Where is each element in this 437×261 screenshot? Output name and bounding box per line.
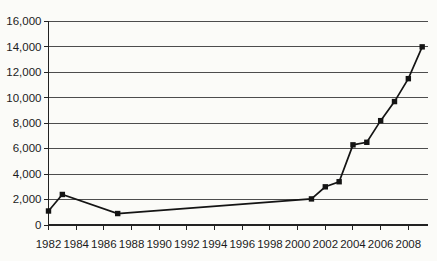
x-tick-label: 2004 [340,238,366,250]
x-tick-label: 2002 [313,238,339,250]
x-tick-label: 1984 [63,238,89,250]
data-point-marker [378,118,383,123]
data-point-marker [115,211,120,216]
y-tick-label: 16,000 [6,15,41,27]
data-point-marker [336,179,341,184]
y-tick-label: 12,000 [6,66,41,78]
x-tick-label: 2008 [396,238,422,250]
x-tick-label: 1982 [36,238,62,250]
y-tick-label: 0 [35,219,41,231]
data-point-marker [392,99,397,104]
y-tick-label: 6,000 [13,142,42,154]
y-tick-label: 14,000 [6,41,41,53]
x-tick-label: 1998 [257,238,283,250]
data-point-marker [60,192,65,197]
x-tick-label: 1996 [229,238,255,250]
data-point-marker [309,196,314,201]
y-tick-label: 4,000 [13,168,42,180]
data-point-marker [323,184,328,189]
data-point-marker [419,44,424,49]
data-point-marker [350,142,355,147]
x-tick-label: 1986 [91,238,117,250]
data-point-marker [46,208,51,213]
x-tick-label: 2000 [285,238,311,250]
data-point-marker [406,76,411,81]
line-chart-figure: 02,0004,0006,0008,00010,00012,00014,0001… [0,0,437,261]
y-tick-label: 10,000 [6,92,41,104]
line-chart: 02,0004,0006,0008,00010,00012,00014,0001… [0,0,437,261]
y-tick-label: 2,000 [13,193,42,205]
x-tick-label: 1994 [202,238,228,250]
x-tick-label: 1988 [119,238,145,250]
x-tick-label: 1990 [146,238,172,250]
chart-background [0,0,437,261]
x-tick-label: 1992 [174,238,200,250]
data-point-marker [364,140,369,145]
x-tick-label: 2006 [368,238,394,250]
y-tick-label: 8,000 [13,117,42,129]
